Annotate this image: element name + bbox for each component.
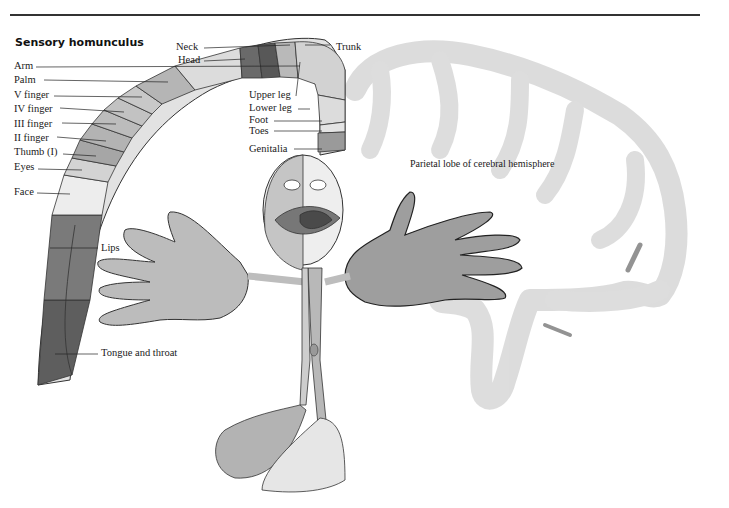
label-toes: Toes	[249, 125, 269, 137]
label-tongue-throat: Tongue and throat	[101, 347, 177, 359]
label-parietal-lobe: Parietal lobe of cerebral hemisphere	[410, 158, 554, 170]
label-iv-finger: IV finger	[14, 103, 53, 115]
homunculus-head	[263, 155, 343, 270]
label-lips: Lips	[101, 242, 120, 254]
label-neck: Neck	[176, 41, 198, 53]
right-hand	[345, 192, 522, 306]
label-trunk: Trunk	[336, 41, 361, 53]
label-face: Face	[14, 186, 34, 198]
left-hand	[98, 212, 248, 325]
label-thumb: Thumb (I)	[14, 146, 57, 158]
label-upper-leg: Upper leg	[249, 89, 291, 101]
homunculus-illustration	[0, 0, 729, 508]
label-arm: Arm	[14, 60, 33, 72]
label-head: Head	[178, 54, 200, 66]
label-ii-finger: II finger	[14, 132, 49, 144]
label-eyes: Eyes	[14, 161, 34, 173]
label-genitalia: Genitalia	[249, 143, 287, 155]
label-palm: Palm	[14, 74, 36, 86]
label-v-finger: V finger	[14, 89, 49, 101]
label-lower-leg: Lower leg	[249, 102, 292, 114]
label-iii-finger: III finger	[14, 118, 52, 130]
